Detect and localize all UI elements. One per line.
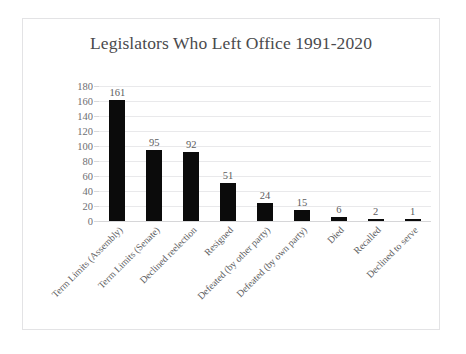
bar-group: 24Defeated (by other party) (247, 86, 284, 221)
x-axis-tick-label: Defeated (by own party) (235, 225, 310, 300)
bar-group: 51Resigned (210, 86, 247, 221)
bar-value-label: 92 (186, 139, 197, 150)
bar-group: 6Died (320, 86, 357, 221)
bar-group: 161Term Limits (Assembly) (99, 86, 136, 221)
bar-series: 161Term Limits (Assembly)95Term Limits (… (99, 86, 431, 221)
bar-value-label: 15 (297, 197, 308, 208)
bar-group: 2Recalled (357, 86, 394, 221)
x-axis-tick-label: Recalled (352, 225, 384, 257)
y-axis-tick-label-40: 40 (83, 186, 94, 197)
y-axis-tick-label-0: 0 (88, 216, 93, 227)
bar-group: 15Defeated (by own party) (283, 86, 320, 221)
bar-value-label: 95 (149, 137, 160, 148)
y-axis-tick-mark-0 (94, 221, 99, 222)
bar-group: 95Term Limits (Senate) (136, 86, 173, 221)
bar[interactable] (109, 100, 125, 221)
bar[interactable] (220, 183, 236, 221)
y-axis-tick-label-120: 120 (77, 126, 93, 137)
y-axis-tick-label-80: 80 (83, 156, 94, 167)
bar-value-label: 161 (110, 87, 126, 98)
bar-value-label: 1 (410, 206, 415, 217)
y-axis-tick-label-20: 20 (83, 201, 94, 212)
y-axis-tick-label-140: 140 (77, 111, 93, 122)
bar[interactable] (331, 217, 347, 222)
bar-group: 92Declined reelection (173, 86, 210, 221)
x-axis-tick-label: Resigned (203, 225, 236, 258)
x-axis-tick-label: Died (325, 225, 346, 246)
y-axis-tick-label-60: 60 (83, 171, 94, 182)
bar[interactable] (294, 210, 310, 221)
y-axis-tick-label-180: 180 (77, 81, 93, 92)
bar-value-label: 51 (223, 170, 234, 181)
bar[interactable] (183, 152, 199, 221)
chart-title: Legislators Who Left Office 1991-2020 (23, 33, 439, 54)
bar[interactable] (146, 150, 162, 221)
bar-value-label: 24 (260, 190, 271, 201)
bar-value-label: 2 (373, 206, 378, 217)
x-axis-tick-label: Term Limits (Assembly) (50, 225, 125, 300)
y-axis-tick-label-100: 100 (77, 141, 93, 152)
plot-area: 180160140120100806040200 161Term Limits … (99, 86, 431, 221)
bar-group: 1Declined to serve (394, 86, 431, 221)
bar[interactable] (405, 219, 421, 221)
bar[interactable] (257, 203, 273, 221)
bar-value-label: 6 (336, 204, 341, 215)
y-axis-tick-label-160: 160 (77, 96, 93, 107)
gridline-0 (99, 221, 431, 222)
bar[interactable] (368, 219, 384, 221)
chart-container: Legislators Who Left Office 1991-2020 18… (22, 18, 440, 330)
